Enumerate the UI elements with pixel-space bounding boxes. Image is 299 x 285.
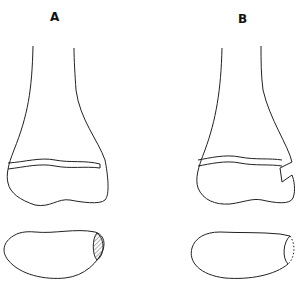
bone-diagram [0, 0, 299, 285]
bone-a [7, 46, 108, 206]
condyle-b [191, 232, 294, 278]
bone-b [197, 46, 295, 204]
condyle-a [4, 231, 104, 279]
